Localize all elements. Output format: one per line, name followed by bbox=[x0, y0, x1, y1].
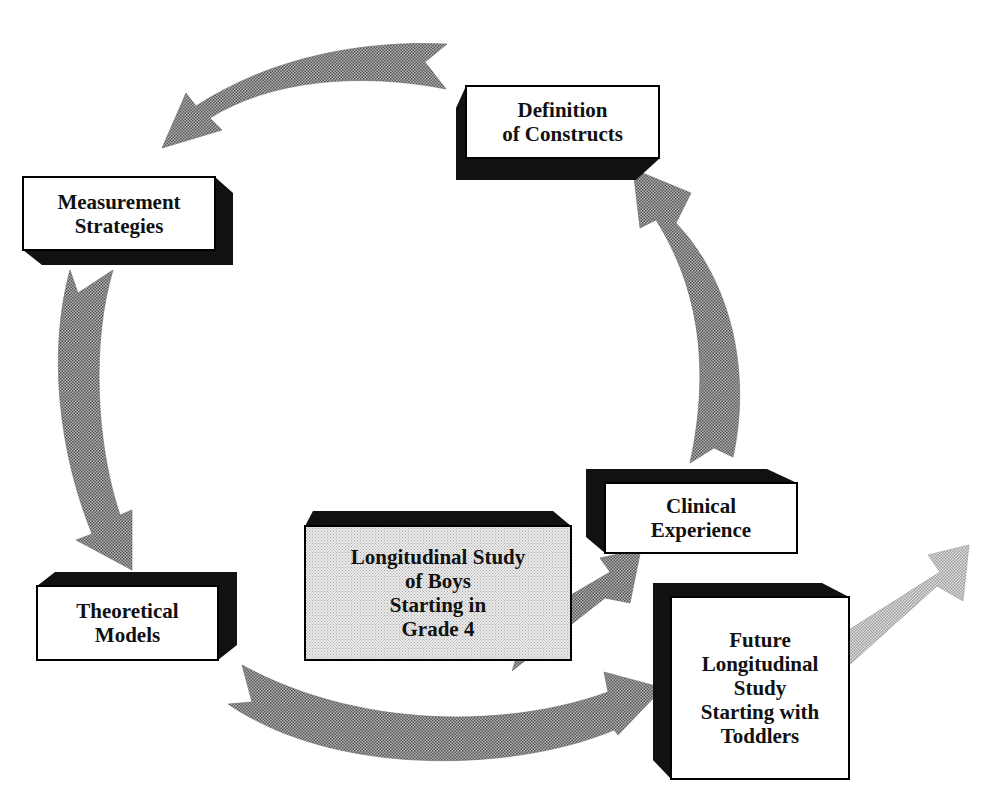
label-future: Future Longitudinal Study Starting with … bbox=[671, 597, 849, 779]
label-definition: Definition of Constructs bbox=[466, 86, 659, 158]
label-theoretical: Theoretical Models bbox=[37, 586, 218, 660]
arrow-definition-to-measurement bbox=[162, 43, 447, 148]
arrow-future-to-beyond bbox=[833, 545, 969, 668]
arrow-measurement-to-theoretical bbox=[58, 270, 132, 570]
label-measurement: Measurement Strategies bbox=[23, 177, 215, 250]
label-clinical: Clinical Experience bbox=[605, 483, 797, 553]
arrow-theoretical-to-future bbox=[228, 665, 663, 761]
title-partial bbox=[340, 0, 680, 6]
label-longitudinal-boys: Longitudinal Study of Boys Starting in G… bbox=[305, 526, 571, 660]
arrow-clinical-to-definition bbox=[633, 169, 740, 463]
